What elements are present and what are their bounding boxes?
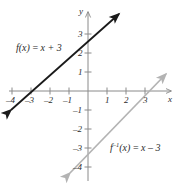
function-label-finv-argument: (x) (119, 142, 130, 153)
y-tick-label-neg3: –3 (73, 144, 82, 153)
x-tick-label-2: 2 (124, 96, 129, 105)
x-tick-label-neg1: –1 (63, 96, 72, 105)
function-label-finv-equals: = (130, 142, 141, 153)
function-label-f-name: f(x) (16, 42, 30, 53)
function-label-f: f(x) = x + 3 (16, 43, 62, 53)
y-tick-label-neg4: –4 (73, 163, 82, 172)
x-tick-label-neg2: –2 (44, 96, 53, 105)
graph-figure: –4 –3 –2 –1 1 2 3 3 2 1 –1 –2 –3 –4 x y … (0, 0, 179, 186)
y-tick-label-neg1: –1 (73, 106, 82, 115)
graph-canvas (0, 0, 179, 186)
function-label-f-inverse: f–1(x) = x – 3 (110, 143, 160, 153)
x-tick-label-neg4: –4 (6, 96, 15, 105)
y-tick-label-neg2: –2 (73, 125, 82, 134)
x-tick-label-neg3: –3 (25, 96, 34, 105)
y-tick-label-2: 2 (78, 49, 83, 58)
function-line-f-inverse (70, 74, 166, 173)
function-label-f-expression: x + 3 (41, 42, 62, 53)
x-tick-label-1: 1 (105, 96, 110, 105)
function-label-f-equals: = (30, 42, 41, 53)
y-axis-label: y (79, 7, 83, 16)
x-axis-label: x (168, 95, 172, 104)
y-tick-label-1: 1 (78, 68, 83, 77)
x-tick-label-3: 3 (143, 96, 148, 105)
y-tick-label-3: 3 (78, 30, 83, 39)
function-label-finv-expression: x – 3 (141, 142, 160, 153)
